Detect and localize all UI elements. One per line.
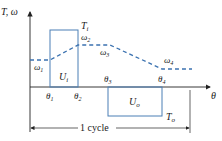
x-axis-label: θ [211,90,216,101]
omega-1-label: ω1 [34,62,43,73]
cycle-label: 1 cycle [80,122,109,133]
input-energy-label: Ui [59,71,68,84]
y-axis-label: T, ω [1,6,18,17]
output-energy-label: Uo [129,96,140,109]
omega-4-label: ω4 [164,55,173,66]
omega-3-label: ω3 [100,47,109,58]
torque-velocity-diagram: T, ω θ Ti To Ui Uo θ1 θ2 θ3 θ4 ω1 ω2 ω3 … [0,0,222,141]
omega-2-label: ω2 [81,32,90,43]
theta-3-label: θ3 [104,74,111,85]
theta-1-label: θ1 [46,91,53,102]
output-torque-label: To [166,111,176,124]
theta-4-label: θ4 [158,74,165,85]
theta-2-label: θ2 [74,91,81,102]
